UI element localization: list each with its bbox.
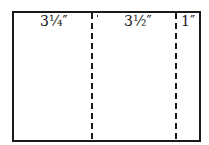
outer-rectangle [12,11,201,142]
fold-line-1 [91,13,93,139]
panel-1-width-label: 3¼″ [40,13,68,29]
fold-line-2 [175,13,177,139]
stray-mark [97,15,98,17]
panel-2-width-label: 3½″ [124,13,152,29]
panel-3-width-label: 1″ [181,13,195,29]
